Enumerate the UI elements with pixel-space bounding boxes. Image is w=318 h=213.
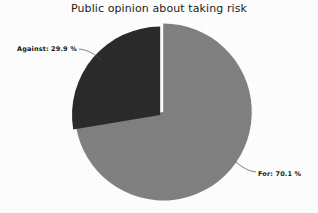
slice-label-against: Against: 29.9 % bbox=[17, 45, 77, 53]
pie-chart-figure: Public opinion about taking risk Against… bbox=[0, 0, 318, 213]
pie-svg-canvas bbox=[0, 0, 318, 213]
slice-label-for: For: 70.1 % bbox=[258, 170, 301, 178]
pie-slice-against[interactable] bbox=[72, 27, 160, 130]
leader-line-for bbox=[236, 162, 256, 172]
